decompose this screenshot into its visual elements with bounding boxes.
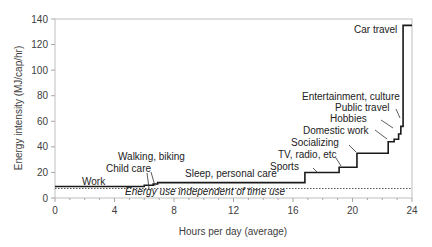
step-chart: 020406080100120140 04812162024 Work Chil…: [0, 0, 432, 247]
y-axis: 020406080100120140: [31, 14, 55, 204]
label-child-care: Child care: [106, 163, 151, 174]
x-tick-label: 12: [228, 205, 240, 216]
label-hobbies: Hobbies: [330, 113, 367, 124]
y-tick-label: 80: [37, 90, 49, 101]
label-car-travel: Car travel: [354, 24, 397, 35]
x-tick-label: 16: [287, 205, 299, 216]
x-tick-label: 4: [112, 205, 118, 216]
label-sleep-personal-care: Sleep, personal care: [185, 168, 277, 179]
x-tick-label: 24: [406, 205, 418, 216]
label-work: Work: [82, 176, 106, 187]
y-tick-label: 120: [31, 39, 48, 50]
y-tick-label: 100: [31, 65, 48, 76]
label-tv-radio: TV, radio, etc: [278, 149, 337, 160]
x-tick-label: 8: [171, 205, 177, 216]
x-tick-label: 20: [347, 205, 359, 216]
label-baseline: Energy use independent of time use: [125, 186, 286, 197]
y-tick-label: 140: [31, 14, 48, 25]
y-tick-label: 20: [37, 167, 49, 178]
x-tick-label: 0: [52, 205, 58, 216]
label-public-travel: Public travel: [335, 102, 389, 113]
label-walking-biking: Walking, biking: [118, 151, 185, 162]
label-domestic-work: Domestic work: [303, 125, 370, 136]
y-tick-label: 0: [42, 193, 48, 204]
x-axis-title: Hours per day (average): [179, 226, 287, 237]
y-tick-label: 40: [37, 141, 49, 152]
label-entertainment-culture: Entertainment, culture: [302, 91, 400, 102]
x-axis: 04812162024: [52, 198, 418, 216]
label-socializing: Socializing: [291, 137, 339, 148]
y-axis-title: Energy intensity (MJ/cap/hr): [13, 46, 24, 171]
y-tick-label: 60: [37, 116, 49, 127]
label-sports: Sports: [270, 161, 299, 172]
